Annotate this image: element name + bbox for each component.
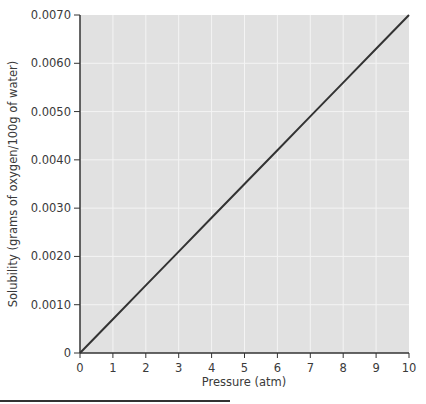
x-tick-label: 3: [175, 361, 182, 375]
y-axis-title: Solubility (grams of oxygen/100g of wate…: [6, 61, 20, 308]
x-tick-label: 1: [109, 361, 116, 375]
y-tick-label: 0.0070: [31, 8, 71, 22]
y-tick-label: 0.0010: [31, 298, 71, 312]
x-tick-label: 9: [372, 361, 379, 375]
y-tick-label: 0: [64, 346, 71, 360]
x-tick-label: 8: [340, 361, 347, 375]
y-tick-label: 0.0040: [31, 153, 71, 167]
footer-rule: [0, 400, 230, 402]
x-tick-label: 4: [208, 361, 215, 375]
y-tick-label: 0.0030: [31, 201, 71, 215]
x-tick-label: 10: [402, 361, 417, 375]
y-tick-label: 0.0020: [31, 249, 71, 263]
x-tick-label: 7: [307, 361, 314, 375]
y-tick-label: 0.0050: [31, 105, 71, 119]
x-axis-title: Pressure (atm): [202, 375, 287, 389]
solubility-chart: 01234567891000.00100.00200.00300.00400.0…: [0, 0, 426, 404]
x-tick-label: 6: [274, 361, 281, 375]
x-tick-label: 0: [76, 361, 83, 375]
x-tick-label: 5: [241, 361, 248, 375]
y-tick-label: 0.0060: [31, 56, 71, 70]
x-tick-label: 2: [142, 361, 149, 375]
